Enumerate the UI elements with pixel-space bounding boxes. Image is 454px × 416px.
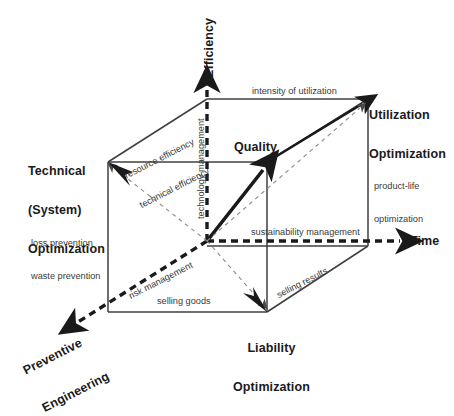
edge-label-intensity-of-utilization: intensity of utilization: [252, 86, 337, 97]
vertex-label-liability-optimization: Liability Optimization: [233, 316, 310, 416]
utilization-vector: [267, 104, 362, 162]
edge-label-waste-prevention: waste prevention: [31, 271, 100, 282]
diagonal-to-utilization-optimization: [207, 108, 360, 241]
vertex-liability-line2: Optimization: [233, 381, 310, 394]
arrowhead-liability-optimization: [243, 287, 267, 312]
vertex-liability-line1: Liability: [233, 342, 310, 355]
edge-label-product-life-optimization: product-life optimization: [374, 159, 423, 247]
edge-label-sustainability-management: sustainability management: [251, 227, 360, 238]
edge-label-selling-goods: selling goods: [157, 296, 211, 307]
axis-lines: [78, 88, 400, 322]
axis-label-efficiency: Efficiency: [202, 18, 216, 78]
vertex-technical-line1: Technical: [28, 165, 105, 178]
axis-label-preventive-line1: Preventive: [21, 332, 93, 378]
utilization-vector-line: [267, 104, 362, 162]
edge-label-resource-efficiency: resource efficiency: [123, 137, 197, 182]
edge-label-loss-prevention: loss prevention: [31, 238, 100, 249]
edge-label-product-life-line1: product-life: [374, 181, 423, 192]
axis-label-preventive-line2: Engineering: [40, 369, 112, 415]
vertex-utilization-line1: Utilization: [369, 109, 446, 122]
edge-label-technology-management: technology management: [196, 118, 207, 219]
vertex-label-quality: Quality: [234, 141, 277, 154]
edge-label-loss-waste-prevention: loss prevention waste prevention: [31, 216, 100, 304]
edge-label-product-life-line2: optimization: [374, 214, 423, 225]
cube-back-face: [207, 99, 368, 246]
